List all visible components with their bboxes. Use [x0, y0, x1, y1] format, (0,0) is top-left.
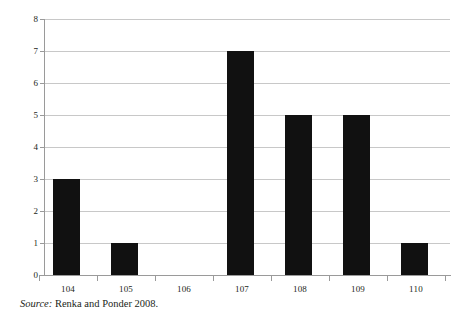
- x-tick-label-110: 110: [387, 284, 445, 294]
- y-tick-label-5: 5: [12, 111, 38, 120]
- y-tick-label-3: 3: [12, 175, 38, 184]
- bars-layer: [44, 19, 450, 275]
- source-label: Source:: [20, 298, 52, 309]
- x-tick-label-104: 104: [39, 284, 97, 294]
- x-tick-label-109: 109: [329, 284, 387, 294]
- y-tick-label-2: 2: [12, 207, 38, 216]
- x-tick-mark-0: [39, 276, 40, 281]
- y-tick-label-6: 6: [12, 79, 38, 88]
- source-citation: Renka and Ponder 2008.: [55, 298, 158, 309]
- bar-105: [111, 243, 138, 275]
- x-tick-mark-3: [213, 276, 214, 281]
- bar-108: [285, 115, 312, 275]
- x-tick-mark-5: [329, 276, 330, 281]
- bar-110: [401, 243, 428, 275]
- x-tick-mark-6: [387, 276, 388, 281]
- x-tick-label-107: 107: [213, 284, 271, 294]
- source-caption: Source: Renka and Ponder 2008.: [20, 297, 158, 310]
- x-tick-mark-1: [97, 276, 98, 281]
- x-axis-spine: [39, 275, 451, 276]
- x-tick-mark-2: [155, 276, 156, 281]
- bar-109: [343, 115, 370, 275]
- y-tick-label-1: 1: [12, 239, 38, 248]
- y-axis-labels: 8 7 6 5 4 3 2 1 0: [8, 0, 38, 319]
- y-tick-label-8: 8: [12, 15, 38, 24]
- y-tick-label-7: 7: [12, 47, 38, 56]
- y-tick-label-4: 4: [12, 143, 38, 152]
- bar-chart-figure: 8 7 6 5 4 3 2 1 0: [0, 0, 473, 319]
- x-tick-mark-7: [445, 276, 446, 281]
- bar-104: [53, 179, 80, 275]
- x-tick-label-106: 106: [155, 284, 213, 294]
- bar-107: [227, 51, 254, 275]
- x-tick-label-108: 108: [271, 284, 329, 294]
- x-tick-mark-4: [271, 276, 272, 281]
- y-tick-label-0: 0: [12, 271, 38, 280]
- x-tick-label-105: 105: [97, 284, 155, 294]
